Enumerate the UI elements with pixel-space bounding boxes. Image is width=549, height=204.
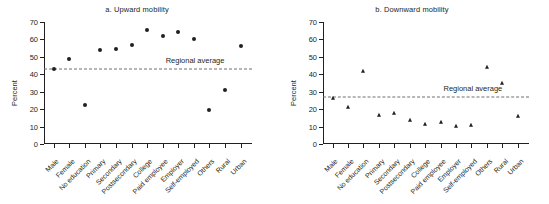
data-point [114,47,118,51]
x-axis-tick [178,144,179,148]
x-axis-tick [502,144,503,148]
y-axis-tick [40,127,44,128]
x-axis-tick-label: Urban [506,157,524,175]
data-point [439,120,443,124]
panel-upward-mobility: a. Upward mobility Percent 0102030405060… [0,0,274,204]
x-axis-tick [209,144,210,148]
regional-average-line [323,96,529,97]
data-point [145,28,149,32]
data-point [346,104,350,108]
x-axis-tick [116,144,117,148]
y-axis-tick [40,109,44,110]
y-axis-tick [40,92,44,93]
data-point [361,69,365,73]
x-axis-tick [363,144,364,148]
y-axis-tick [319,39,323,40]
x-axis-tick [456,144,457,148]
y-axis-tick-label: 0 [34,140,38,149]
data-point [192,37,196,41]
regional-average-label: Regional average [444,84,503,93]
x-axis-tick [225,144,226,148]
data-point [454,123,458,127]
x-axis-tick [441,144,442,148]
x-axis-tick [394,144,395,148]
y-axis-tick [319,57,323,58]
data-point [408,117,412,121]
regional-average-line [44,69,252,70]
y-axis-tick [40,144,44,145]
data-point [67,57,71,61]
y-axis-tick-label: 40 [30,70,38,79]
x-axis-tick [241,144,242,148]
y-axis-tick [319,22,323,23]
panel-a-y-axis-title: Percent [10,80,19,106]
x-axis-tick [132,144,133,148]
data-point [516,114,520,118]
data-point [392,110,396,114]
figure-two-panel-mobility: a. Upward mobility Percent 0102030405060… [0,0,549,204]
panel-a-plot-area: 010203040506070MaleFemaleNo educationPri… [44,22,252,144]
data-point [469,123,473,127]
y-axis-tick-label: 60 [30,35,38,44]
y-axis-tick-label: 20 [30,105,38,114]
y-axis-tick-label: 50 [309,52,317,61]
x-axis-tick [85,144,86,148]
data-point [377,113,381,117]
panel-b-title: b. Downward mobility [275,5,549,14]
data-point [176,30,180,34]
x-axis-tick [69,144,70,148]
y-axis-tick-label: 60 [309,35,317,44]
y-axis-tick-label: 50 [30,52,38,61]
y-axis-tick [40,39,44,40]
y-axis-tick-label: 10 [30,122,38,131]
y-axis-tick [319,127,323,128]
data-point [485,65,489,69]
y-axis-tick-label: 20 [309,105,317,114]
y-axis-tick [319,92,323,93]
x-axis-tick [410,144,411,148]
panel-a-title: a. Upward mobility [0,5,274,14]
y-axis-tick-label: 40 [309,70,317,79]
x-axis-tick [100,144,101,148]
x-axis-tick [194,144,195,148]
data-point [207,108,211,112]
x-axis-tick [425,144,426,148]
y-axis-tick [40,57,44,58]
y-axis-tick-label: 30 [30,87,38,96]
x-axis-tick [163,144,164,148]
panel-b-y-axis-title: Percent [289,80,298,106]
x-axis-tick [333,144,334,148]
data-point [331,96,335,100]
y-axis-tick [40,74,44,75]
x-axis-tick [471,144,472,148]
x-axis-tick [54,144,55,148]
y-axis-tick-label: 70 [309,18,317,27]
data-point [239,44,243,48]
x-axis-tick-label: Urban [229,157,247,175]
y-axis-tick [319,144,323,145]
panel-b-y-axis-line [323,22,324,144]
x-axis-tick [348,144,349,148]
data-point [83,103,87,107]
data-point [223,88,227,92]
panel-downward-mobility: b. Downward mobility Percent 01020304050… [275,0,549,204]
y-axis-tick [40,22,44,23]
data-point [98,48,102,52]
regional-average-label: Regional average [166,56,225,65]
panel-a-y-axis-line [44,22,45,144]
y-axis-tick-label: 0 [313,140,317,149]
panel-b-plot-area: 010203040506070MaleFemaleNo educationPri… [323,22,529,144]
y-axis-tick-label: 30 [309,87,317,96]
x-axis-tick [147,144,148,148]
data-point [130,43,134,47]
y-axis-tick-label: 70 [30,18,38,27]
y-axis-tick-label: 10 [309,122,317,131]
data-point [161,34,165,38]
y-axis-tick [319,74,323,75]
x-axis-tick [379,144,380,148]
data-point [500,81,504,85]
x-axis-tick [487,144,488,148]
y-axis-tick [319,109,323,110]
x-axis-tick [518,144,519,148]
data-point [423,122,427,126]
